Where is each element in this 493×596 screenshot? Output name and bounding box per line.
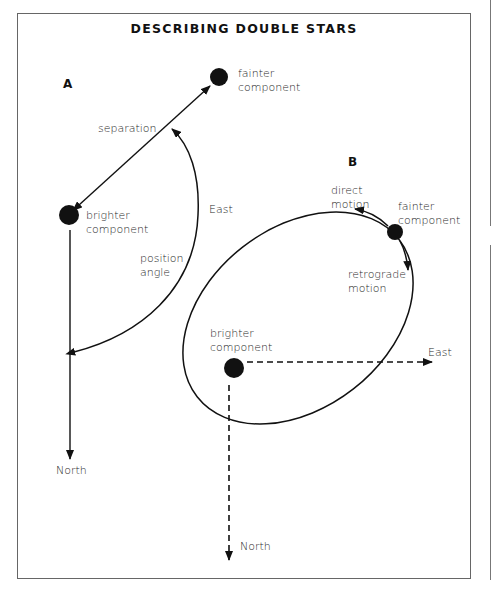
position-angle-label-line2: angle: [140, 266, 170, 279]
brighter-label-b-line1: brighter: [210, 327, 254, 340]
brighter-label-a-line1: brighter: [86, 209, 130, 222]
east-label-b: East: [428, 346, 452, 359]
figure-title: DESCRIBING DOUBLE STARS: [131, 21, 358, 36]
brighter-star-b: [224, 358, 244, 378]
fainter-label-a-line2: component: [238, 81, 300, 94]
position-angle-label-line1: position: [140, 252, 184, 265]
diagram-b: B fainter component direct motion retrog…: [142, 155, 461, 560]
direct-motion-label-line2: motion: [331, 198, 370, 211]
diagram-canvas: DESCRIBING DOUBLE STARS A fainter compon…: [0, 0, 493, 596]
brighter-star-a: [59, 205, 79, 225]
diagram-a-label: A: [63, 77, 73, 91]
fainter-label-b-line1: fainter: [398, 200, 435, 213]
position-angle-arc: [74, 129, 198, 352]
direct-motion-label-line1: direct: [331, 184, 362, 197]
diagram-a: A fainter component separation brighter …: [56, 67, 300, 477]
north-label-b: North: [240, 540, 271, 553]
separation-label: separation: [98, 122, 157, 135]
retrograde-motion-label-line1: retrograde: [348, 268, 406, 281]
east-label-a: East: [209, 203, 233, 216]
fainter-label-a-line1: fainter: [238, 67, 275, 80]
figure-frame: [18, 14, 471, 579]
brighter-label-a-line2: component: [86, 223, 148, 236]
fainter-star-a: [210, 68, 228, 86]
brighter-label-b-line2: component: [210, 341, 272, 354]
separation-arrow: [79, 86, 210, 205]
direct-motion-arrow: [355, 209, 388, 226]
fainter-label-b-line2: component: [398, 214, 460, 227]
retrograde-motion-label-line2: motion: [348, 282, 387, 295]
north-label-a: North: [56, 464, 87, 477]
diagram-b-label: B: [348, 155, 357, 169]
